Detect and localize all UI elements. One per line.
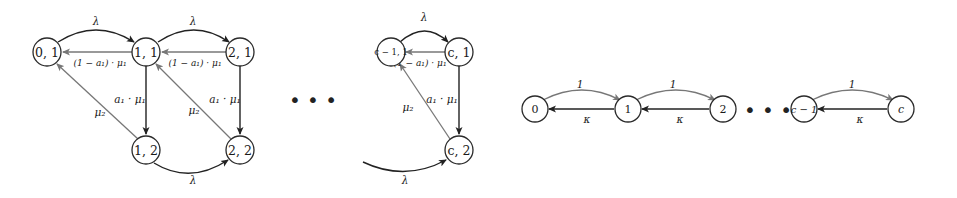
label-up-cm1-c: 1 xyxy=(849,78,856,90)
label-lambda-01-11: λ xyxy=(92,15,100,27)
label-down-c1-c2: a₁ · μ₁ xyxy=(426,93,458,105)
svg-text:c, 2: c, 2 xyxy=(448,143,471,158)
svg-text:c, 1: c, 1 xyxy=(448,45,471,60)
label-up-1-2: 1 xyxy=(670,78,677,90)
node-0: 0 xyxy=(522,96,548,122)
svg-text:0: 0 xyxy=(532,103,539,116)
ellipsis-right: • • • xyxy=(744,98,792,122)
node-c: c xyxy=(888,96,914,122)
svg-text:c − 1: c − 1 xyxy=(791,104,818,115)
label-down-11-12: a₁ · μ₁ xyxy=(114,93,146,105)
edge-up-1-2 xyxy=(636,90,715,100)
svg-text:2: 2 xyxy=(720,103,727,116)
label-lambda-12-22: λ xyxy=(189,174,197,186)
label-down-2-1: κ xyxy=(676,113,684,125)
node-2: 2 xyxy=(710,96,736,122)
right-diagram: 1 1 1 κ κ κ 0 1 2 • • • c − 1 c xyxy=(522,78,914,125)
label-lambda-11-21: λ xyxy=(189,15,197,27)
edge-up-cm1-c xyxy=(812,90,893,100)
label-down-1-0: κ xyxy=(583,113,591,125)
svg-text:2, 2: 2, 2 xyxy=(228,143,252,158)
svg-text:2, 1: 2, 1 xyxy=(228,45,252,60)
node-2-1: 2, 1 xyxy=(226,38,254,66)
edge-lambda-12-22 xyxy=(154,160,228,173)
ellipsis-left: • • • xyxy=(289,88,337,112)
svg-text:1, 1: 1, 1 xyxy=(134,45,158,60)
label-lambda-cm1-c1: λ xyxy=(420,11,428,23)
label-up-0-1: 1 xyxy=(577,78,584,90)
node-1-2: 1, 2 xyxy=(132,136,160,164)
edge-lambda-01-11 xyxy=(58,30,134,42)
edge-lambda-cm1-c1 xyxy=(400,31,448,42)
svg-text:1: 1 xyxy=(625,103,632,116)
node-1: 1 xyxy=(615,96,641,122)
svg-text:0, 1: 0, 1 xyxy=(35,45,59,60)
label-lambda-in-c2: λ xyxy=(401,174,409,186)
label-down-c-cm1: κ xyxy=(856,113,864,125)
label-mu2-c2-cm1: μ₂ xyxy=(402,101,413,113)
label-ret-21-11: (1 − a₁) · μ₁ xyxy=(168,58,221,68)
svg-text:c: c xyxy=(898,103,904,116)
left-diagram: λ λ λ λ λ (1 − a₁) · μ₁ (1 − a₁) · μ₁ (1… xyxy=(33,11,473,186)
label-mu2-12-01: μ₂ xyxy=(94,106,105,118)
label-mu2-22-11: μ₂ xyxy=(188,104,199,116)
svg-text:1, 2: 1, 2 xyxy=(134,143,158,158)
label-down-21-22: a₁ · μ₁ xyxy=(209,93,241,105)
edge-lambda-in-c2 xyxy=(363,160,446,172)
label-ret-11-01: (1 − a₁) · μ₁ xyxy=(73,58,126,68)
svg-text:c − 1, 1: c − 1, 1 xyxy=(374,47,408,57)
node-c-minus-1: c − 1 xyxy=(791,96,818,122)
edge-up-0-1 xyxy=(543,90,620,100)
node-1-1: 1, 1 xyxy=(132,38,160,66)
edge-lambda-11-21 xyxy=(158,30,229,42)
node-c-2: c, 2 xyxy=(445,136,473,164)
node-c-1: c, 1 xyxy=(445,38,473,66)
node-0-1: 0, 1 xyxy=(33,38,61,66)
node-2-2: 2, 2 xyxy=(226,136,254,164)
markov-chain-diagrams: λ λ λ λ λ (1 − a₁) · μ₁ (1 − a₁) · μ₁ (1… xyxy=(0,0,957,198)
